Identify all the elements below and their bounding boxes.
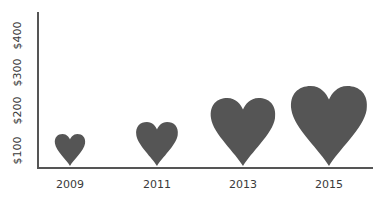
heart-icon — [209, 98, 277, 166]
x-tick-2013: 2013 — [223, 178, 263, 191]
y-tick-200: $200 — [3, 92, 31, 128]
y-tick-100: $100 — [3, 132, 31, 168]
y-tick-label: $300 — [11, 58, 24, 86]
y-tick-label: $400 — [11, 21, 24, 49]
heart-icon — [289, 86, 369, 166]
x-axis-line — [37, 167, 373, 169]
y-tick-400: $400 — [3, 17, 31, 53]
x-tick-2011: 2011 — [137, 178, 177, 191]
x-tick-2009: 2009 — [50, 178, 90, 191]
heart-icon — [135, 122, 179, 166]
y-tick-label: $200 — [11, 96, 24, 124]
heart-icon — [54, 134, 86, 166]
y-tick-300: $300 — [3, 54, 31, 90]
y-tick-label: $100 — [11, 136, 24, 164]
heart-pictograph-chart: $400 $300 $200 $100 2009 2011 2013 2015 — [0, 0, 390, 206]
y-axis-line — [37, 12, 39, 168]
x-tick-2015: 2015 — [309, 178, 349, 191]
